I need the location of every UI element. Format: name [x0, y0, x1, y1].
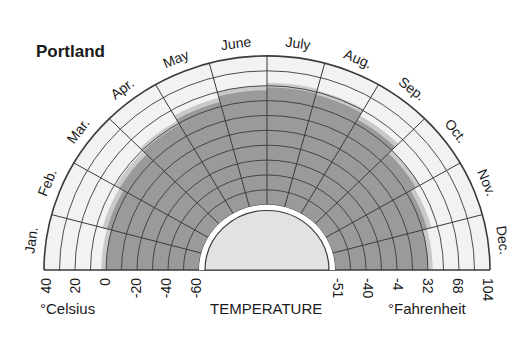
celsius-tick: -40	[158, 278, 174, 298]
temperature-axis-label: TEMPERATURE	[210, 300, 322, 317]
temperature-radial-chart: Portland Jan.Feb.Mar.Apr.MayJuneJulyAug.…	[0, 0, 531, 343]
celsius-tick: 20	[67, 278, 83, 294]
celsius-tick: -60	[188, 278, 204, 298]
celsius-tick: 40	[38, 278, 54, 294]
month-label: June	[220, 33, 252, 53]
month-label: Aug.	[342, 46, 375, 72]
fahrenheit-tick: -51	[330, 278, 346, 298]
month-label: Dec.	[493, 225, 513, 256]
fahrenheit-ticks: -51-40-43268104	[330, 278, 496, 302]
month-label: Jan.	[21, 226, 40, 254]
month-label: Feb.	[34, 166, 60, 198]
celsius-ticks: 40200-20-40-60	[38, 278, 204, 298]
chart-title: Portland	[36, 42, 105, 61]
fahrenheit-tick: -4	[390, 278, 406, 291]
month-label: Nov.	[474, 167, 499, 199]
month-label: May	[161, 46, 192, 71]
celsius-tick: -20	[128, 278, 144, 298]
fahrenheit-tick: 32	[420, 278, 436, 294]
celsius-axis-label: °Celsius	[40, 300, 95, 317]
fahrenheit-tick: 104	[480, 278, 496, 302]
fahrenheit-axis-label: °Fahrenheit	[388, 300, 467, 317]
celsius-tick: 0	[97, 278, 113, 286]
fahrenheit-tick: -40	[360, 278, 376, 298]
month-label: July	[285, 34, 312, 53]
fahrenheit-tick: 68	[450, 278, 466, 294]
